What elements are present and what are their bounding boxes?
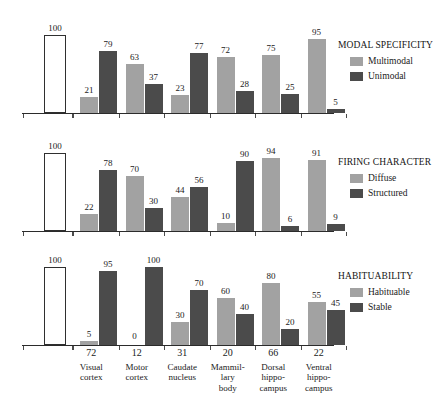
category-label-2: 12Motorcortex xyxy=(116,348,159,383)
panel-baseline-axis xyxy=(22,345,334,346)
bar-value-label: 95 xyxy=(94,260,122,269)
category-name: Ventralhippo-campus xyxy=(298,362,341,394)
bar-value-label: 20 xyxy=(276,318,304,327)
category-number: 22 xyxy=(298,348,341,359)
category-label-4: 20Mammil-larybody xyxy=(207,348,250,393)
bar-value-label: 60 xyxy=(212,287,240,296)
category-number: 20 xyxy=(207,348,250,359)
category-name: Caudatenucleus xyxy=(161,362,204,383)
category-label-1: 72Visualcortex xyxy=(70,348,113,383)
legend-label: Stable xyxy=(368,302,392,312)
bar-stable-1 xyxy=(99,271,117,345)
reference-bar-100 xyxy=(44,267,66,345)
bar-value-label: 70 xyxy=(185,279,213,288)
bar-stable-6 xyxy=(327,310,345,345)
category-name: Visualcortex xyxy=(70,362,113,383)
category-name: Dorsalhippo-campus xyxy=(252,362,295,394)
category-number: 31 xyxy=(161,348,204,359)
category-label-6: 22Ventralhippo-campus xyxy=(298,348,341,393)
bar-habituable-6 xyxy=(308,302,326,345)
category-axis: 72Visualcortex12Motorcortex31Caudatenucl… xyxy=(22,348,334,404)
category-label-5: 66Dorsalhippo-campus xyxy=(252,348,295,393)
bar-habituable-1 xyxy=(80,341,98,345)
category-name: Mammil-larybody xyxy=(207,362,250,394)
bar-habituable-5 xyxy=(262,283,280,345)
category-name: Motorcortex xyxy=(116,362,159,383)
reference-bar-value-label: 100 xyxy=(40,256,70,265)
category-number: 72 xyxy=(70,348,113,359)
bar-stable-2 xyxy=(145,267,163,345)
bar-stable-4 xyxy=(236,314,254,345)
legend-title: HABITUABILITY xyxy=(338,271,413,282)
bar-habituable-3 xyxy=(171,322,189,345)
bar-value-label: 80 xyxy=(257,272,285,281)
bar-value-label: 40 xyxy=(231,303,259,312)
axis-tick xyxy=(346,346,347,350)
category-label-3: 31Caudatenucleus xyxy=(161,348,204,383)
category-number: 66 xyxy=(252,348,295,359)
category-number: 12 xyxy=(116,348,159,359)
legend-item-stable: Stable xyxy=(350,302,413,312)
legend-panel-3: HABITUABILITYHabituableStable xyxy=(338,271,413,312)
bar-value-label: 100 xyxy=(140,256,168,265)
legend-item-habituable: Habituable xyxy=(350,287,413,297)
bar-stable-5 xyxy=(281,329,299,345)
bar-stable-3 xyxy=(190,290,208,345)
legend-swatch-icon xyxy=(350,303,363,312)
legend-label: Habituable xyxy=(368,287,410,297)
legend-swatch-icon xyxy=(350,288,363,297)
